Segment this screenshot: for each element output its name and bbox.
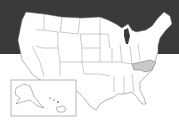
us-map: [0, 0, 179, 127]
